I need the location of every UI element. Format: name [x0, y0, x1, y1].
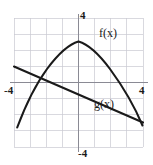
graph-figure: 4 -4 -4 4 f(x) g(x)	[0, 0, 153, 165]
x-axis-left-tick-label: -4	[4, 85, 13, 96]
axes	[10, 14, 148, 152]
x-axis-right-tick-label: 4	[139, 85, 145, 96]
y-axis-top-tick-label: 4	[80, 10, 86, 21]
graph-canvas	[0, 0, 153, 165]
curve-label-gx: g(x)	[94, 98, 114, 110]
y-axis-bottom-tick-label: -4	[78, 148, 87, 159]
curve-label-fx: f(x)	[99, 27, 117, 39]
